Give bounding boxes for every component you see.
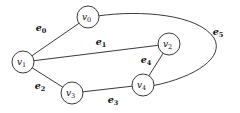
node-v3: v3 — [61, 82, 83, 104]
edge-label-e0: e0 — [36, 22, 47, 35]
graph-canvas: v0v1v2v3v4e0e1e2e3e4e5 — [0, 0, 240, 113]
edge-label-e1: e1 — [96, 36, 107, 49]
graph-figure: v0v1v2v3v4e0e1e2e3e4e5 — [0, 0, 240, 113]
edge-label-e3: e3 — [108, 94, 119, 107]
node-v4: v4 — [132, 74, 154, 96]
edge-e5 — [99, 13, 216, 85]
edge-e1 — [34, 45, 158, 60]
node-v1: v1 — [12, 51, 34, 73]
node-v0: v0 — [77, 6, 99, 28]
node-v2: v2 — [158, 33, 180, 55]
edge-label-e5: e5 — [213, 26, 224, 39]
edge-label-e4: e4 — [141, 54, 152, 67]
edge-label-e2: e2 — [35, 80, 46, 93]
edge-e3 — [83, 86, 132, 92]
